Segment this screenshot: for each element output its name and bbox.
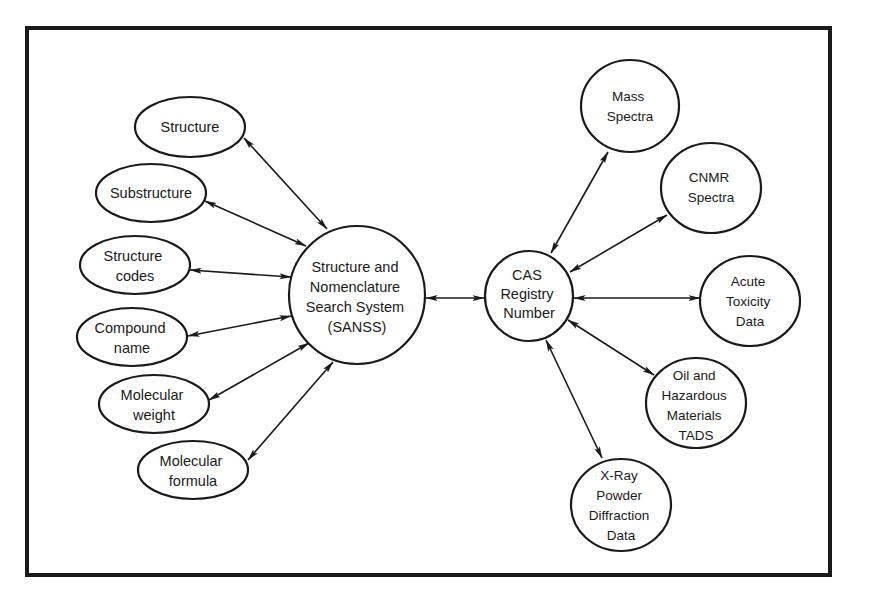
node-xray-powder: X-Ray Powder Diffraction Data [571,459,671,551]
node-compound-name: Compound name [77,308,187,366]
node-molecular-weight: Molecular weight [99,375,209,433]
edge-cas-oil-hazardous [568,320,654,375]
hub-cas: CAS Registry Number [485,251,573,341]
node-acute-toxicity: Acute Toxicity Data [700,256,800,346]
edge-cas-mass-spectra [551,152,608,253]
node-structure-codes: Structure codes [80,236,190,294]
hub-sanss: Structure and Nomenclature Search System… [289,226,425,364]
edge-structure-codes-sanss [190,270,291,277]
node-molecular-formula: Molecular formula [138,441,248,499]
edge-structure-sanss [244,138,327,229]
edge-cas-cnmr [570,215,667,272]
node-cnmr-spectra: CNMR Spectra [661,143,761,233]
node-substructure-label: Substructure [110,185,192,201]
node-structure-codes-shape [80,236,190,294]
edge-molecular-weight-sanss [209,343,309,400]
node-oil-hazardous: Oil and Hazardous Materials TADS [646,358,746,448]
edge-compound-name-sanss [188,316,291,336]
diagram-canvas: Structure Substructure Structure codes C… [0,0,882,602]
edges [188,138,700,460]
node-mass-spectra: Mass Spectra [581,60,679,152]
node-mass-spectra-shape [581,60,679,152]
edge-molecular-formula-sanss [248,362,333,460]
node-molecular-formula-shape [138,441,248,499]
node-compound-name-shape [77,308,187,366]
node-structure-label: Structure [161,119,220,135]
node-molecular-weight-shape [99,375,209,433]
node-cnmr-spectra-shape [661,143,761,233]
hub-sanss-shape [289,226,425,364]
node-substructure: Substructure [96,164,206,222]
edge-cas-xray [546,340,602,458]
edge-substructure-sanss [205,201,306,246]
node-structure: Structure [135,97,245,157]
